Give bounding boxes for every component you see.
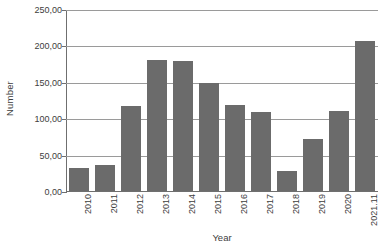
bar — [199, 83, 220, 191]
bar — [121, 106, 142, 191]
plot-area — [66, 10, 378, 192]
x-tick-label: 2020 — [343, 194, 353, 214]
bar — [69, 168, 90, 191]
bar — [95, 165, 116, 191]
y-tick-label: 50,00 — [20, 151, 62, 161]
x-tick-label: 2019 — [317, 194, 327, 214]
bar — [225, 105, 246, 191]
x-axis-tick-labels: 2010201120122013201420152016201720182019… — [66, 194, 378, 234]
bar-chart: Number 0,0050,00100,00150,00200,00250,00… — [0, 0, 383, 248]
x-tick-label: 2014 — [187, 194, 197, 214]
bar — [277, 171, 298, 191]
bar — [173, 61, 194, 191]
x-tick-label: 2012 — [135, 194, 145, 214]
y-axis-tick-labels: 0,0050,00100,00150,00200,00250,00 — [20, 0, 62, 248]
x-tick-label: 2010 — [83, 194, 93, 214]
x-tick-label: 2021.11 — [369, 194, 379, 226]
bar — [147, 60, 168, 191]
x-tick-label: 2013 — [161, 194, 171, 214]
bars-layer — [66, 10, 378, 192]
y-axis-title: Number — [4, 69, 15, 129]
x-tick-label: 2016 — [239, 194, 249, 214]
y-tick-label: 150,00 — [20, 78, 62, 88]
x-tick-label: 2018 — [291, 194, 301, 214]
bar — [355, 41, 376, 191]
y-tick-label: 100,00 — [20, 114, 62, 124]
y-tick-label: 200,00 — [20, 41, 62, 51]
x-tick-label: 2015 — [213, 194, 223, 214]
x-axis-line — [66, 191, 378, 192]
y-tick-mark — [62, 192, 66, 193]
bar — [329, 111, 350, 191]
y-tick-label: 250,00 — [20, 5, 62, 15]
x-axis-title: Year — [66, 232, 378, 243]
y-tick-label: 0,00 — [20, 187, 62, 197]
bar — [251, 112, 272, 191]
x-tick-label: 2011 — [109, 194, 119, 213]
bar — [303, 139, 324, 191]
x-tick-label: 2017 — [265, 194, 275, 214]
